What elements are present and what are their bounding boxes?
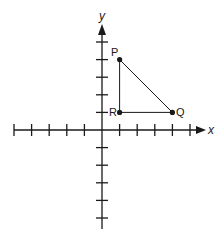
point-r: [117, 110, 122, 115]
label-p: P: [111, 46, 118, 58]
point-q: [170, 110, 175, 115]
x-axis-arrow-icon: [196, 126, 206, 134]
label-q: Q: [176, 106, 185, 118]
coordinate-plane: x y P Q R: [0, 0, 220, 240]
y-axis-label: y: [98, 9, 106, 23]
y-axis-arrow-icon: [98, 24, 106, 35]
label-r: R: [109, 106, 117, 118]
triangle-pqr: [120, 60, 173, 113]
x-axis-label: x: [207, 123, 215, 137]
